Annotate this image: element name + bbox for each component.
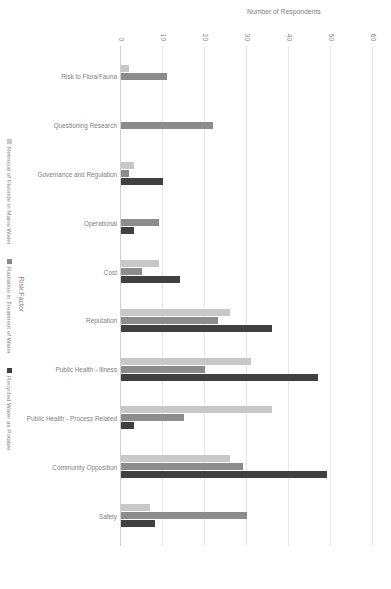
category-label-text: Risk to Flora/Fauna bbox=[61, 73, 117, 80]
category-label-text: Safety bbox=[99, 512, 117, 519]
category-label-text: Questioning Research bbox=[54, 122, 117, 129]
category-label: Public Health - Process Related bbox=[31, 394, 117, 443]
y-tick-label: 10 bbox=[160, 34, 167, 41]
category-label: Questioning Research bbox=[31, 101, 117, 150]
y-tick-label: 60 bbox=[370, 34, 377, 41]
bar bbox=[121, 260, 159, 267]
bar-group bbox=[121, 394, 373, 443]
bar bbox=[121, 520, 155, 527]
bar bbox=[121, 406, 272, 413]
bar-groups bbox=[121, 46, 373, 546]
y-axis-title: Number of Respondents bbox=[247, 8, 321, 15]
rotated-figure-wrapper: 0102030405060 Number of Respondents Risk… bbox=[0, 0, 391, 589]
legend-swatch-icon bbox=[7, 139, 12, 144]
bar bbox=[121, 512, 247, 519]
bar bbox=[121, 268, 142, 275]
bar bbox=[121, 358, 251, 365]
category-label-text: Reputation bbox=[86, 317, 117, 324]
bar bbox=[121, 162, 134, 169]
bar bbox=[121, 170, 129, 177]
bar bbox=[121, 366, 205, 373]
category-label: Reputation bbox=[31, 296, 117, 345]
bar bbox=[121, 276, 180, 283]
bar-group bbox=[121, 442, 373, 491]
y-tick-label: 0 bbox=[118, 37, 125, 41]
category-axis-labels: Risk to Flora/FaunaQuestioning ResearchG… bbox=[31, 46, 117, 546]
bar bbox=[121, 374, 318, 381]
category-label: Governance and Regulation bbox=[31, 150, 117, 199]
legend-label: Removal of Fluoride in Mains Water bbox=[6, 147, 13, 245]
category-label-text: Cost bbox=[104, 268, 117, 275]
bar bbox=[121, 422, 134, 429]
bar bbox=[121, 122, 213, 129]
category-label-text: Governance and Regulation bbox=[37, 170, 117, 177]
category-label: Safety bbox=[31, 491, 117, 540]
plot-area: 0102030405060 bbox=[121, 46, 373, 546]
category-label: Risk to Flora/Fauna bbox=[31, 52, 117, 101]
category-label: Cost bbox=[31, 247, 117, 296]
legend-swatch-icon bbox=[7, 368, 12, 373]
bar bbox=[121, 73, 167, 80]
bar-group bbox=[121, 296, 373, 345]
bar bbox=[121, 309, 230, 316]
x-axis-title: Risk Factor bbox=[18, 0, 25, 589]
bar bbox=[121, 325, 272, 332]
bar-group bbox=[121, 345, 373, 394]
category-label: Community Opposition bbox=[31, 442, 117, 491]
y-tick-label: 30 bbox=[244, 34, 251, 41]
bar-group bbox=[121, 198, 373, 247]
category-label-text: Operational bbox=[84, 219, 117, 226]
bar-group bbox=[121, 52, 373, 101]
category-label-text: Public Health - Illness bbox=[56, 366, 117, 373]
bar bbox=[121, 455, 230, 462]
category-label: Operational bbox=[31, 198, 117, 247]
legend-label: Recycled Water as Potable bbox=[6, 376, 13, 450]
legend-label: Radiation in Treatment of Water bbox=[6, 267, 13, 354]
y-tick-label: 40 bbox=[286, 34, 293, 41]
category-label-text: Public Health - Process Related bbox=[27, 414, 117, 421]
y-tick-label: 50 bbox=[328, 34, 335, 41]
bar bbox=[121, 414, 184, 421]
legend-item: Recycled Water as Potable bbox=[6, 368, 13, 450]
bar bbox=[121, 219, 159, 226]
legend-swatch-icon bbox=[7, 259, 12, 264]
category-label: Public Health - Illness bbox=[31, 345, 117, 394]
bar-group bbox=[121, 491, 373, 540]
legend-item: Removal of Fluoride in Mains Water bbox=[6, 139, 13, 245]
bar-group bbox=[121, 150, 373, 199]
bar bbox=[121, 178, 163, 185]
chart-legend: Removal of Fluoride in Mains WaterRadiat… bbox=[6, 0, 13, 589]
legend-item: Radiation in Treatment of Water bbox=[6, 259, 13, 354]
bar-group bbox=[121, 101, 373, 150]
bar bbox=[121, 504, 150, 511]
bar bbox=[121, 463, 243, 470]
bar-group bbox=[121, 247, 373, 296]
bar bbox=[121, 227, 134, 234]
bar-chart-figure: 0102030405060 Number of Respondents Risk… bbox=[0, 0, 391, 589]
bar bbox=[121, 65, 129, 72]
y-tick-label: 20 bbox=[202, 34, 209, 41]
bar bbox=[121, 317, 218, 324]
bar bbox=[121, 471, 327, 478]
category-label-text: Community Opposition bbox=[52, 463, 117, 470]
